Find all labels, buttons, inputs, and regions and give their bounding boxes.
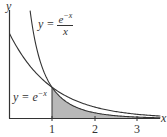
eq2-exponent: −x [38, 89, 47, 98]
eq1-exponent: −x [63, 11, 72, 20]
tick-label-2: 2 [92, 123, 98, 135]
y-axis-label: y [6, 0, 11, 12]
label-exp-neg-x: y = e−x [13, 90, 47, 103]
label-exp-over-x: y = e−xx [38, 12, 73, 37]
tick-label-3: 3 [134, 123, 140, 135]
x-axis-label: x [161, 112, 166, 124]
eq1-lhs: y = [38, 17, 57, 31]
eq2-lhs: y = e [13, 90, 38, 104]
tick-label-1: 1 [49, 123, 55, 135]
chart-plot [0, 0, 167, 137]
eq1-fraction: e−xx [57, 12, 73, 37]
eq1-denominator: x [63, 26, 68, 37]
